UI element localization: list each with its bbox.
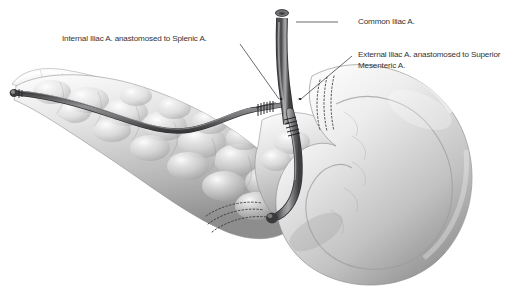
cut-lumen xyxy=(275,10,288,17)
label-internal-iliac: Internal Iliac A. anastomosed to Splenic… xyxy=(62,33,207,44)
duodenum xyxy=(276,63,472,285)
label-common-iliac: Common Iliac A. xyxy=(358,16,415,27)
graft-distal-stump xyxy=(266,213,278,224)
leader-internal-iliac xyxy=(240,44,279,99)
label-external-iliac: External Iliac A. anastomosed to Superio… xyxy=(358,49,505,71)
